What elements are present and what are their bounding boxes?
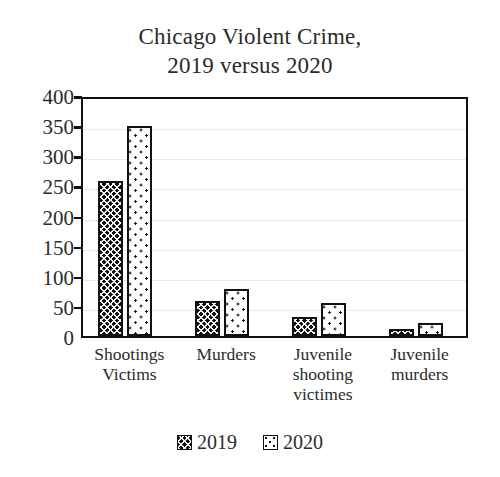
- chart-legend: 20192020: [0, 432, 500, 452]
- legend-label-2020: 2020: [283, 432, 323, 452]
- y-tick-label: 0: [12, 328, 74, 349]
- x-category-label-line: victimes: [265, 384, 382, 404]
- chart-title: Chicago Violent Crime, 2019 versus 2020: [0, 22, 500, 80]
- y-tick-label: 150: [12, 238, 74, 259]
- chart-title-line-2: 2019 versus 2020: [0, 51, 500, 80]
- x-axis-labels: ShootingsVictimsMurdersJuvenileshootingv…: [81, 344, 468, 416]
- y-tick-label: 300: [12, 147, 74, 168]
- x-category-label-line: murders: [361, 364, 478, 384]
- y-tick-label: 50: [12, 298, 74, 319]
- x-category-label: Juvenilemurders: [361, 344, 478, 384]
- plot-area: [81, 97, 468, 338]
- bar-2019-juvenile-murders[interactable]: [389, 329, 414, 336]
- x-category-label-line: Victims: [71, 364, 188, 384]
- bar-2019-shootings-victims[interactable]: [98, 181, 123, 336]
- y-tick-label: 200: [12, 208, 74, 229]
- y-tick-label: 400: [12, 87, 74, 108]
- bar-2020-murders[interactable]: [224, 289, 249, 336]
- chart-title-line-1: Chicago Violent Crime,: [0, 22, 500, 51]
- legend-swatch-2020: [263, 435, 278, 450]
- legend-swatch-2019: [177, 435, 192, 450]
- bar-2019-murders[interactable]: [195, 301, 220, 336]
- y-tick-label: 350: [12, 117, 74, 138]
- y-tick-label: 100: [12, 268, 74, 289]
- legend-item-2019[interactable]: 2019: [177, 432, 237, 452]
- y-axis: 400350300250200150100500: [8, 97, 74, 338]
- bar-2019-juvenile-shooting-victimes[interactable]: [292, 317, 317, 336]
- legend-item-2020[interactable]: 2020: [263, 432, 323, 452]
- bar-2020-juvenile-shooting-victimes[interactable]: [321, 303, 346, 336]
- bar-2020-juvenile-murders[interactable]: [418, 323, 443, 336]
- y-tick-label: 250: [12, 177, 74, 198]
- x-category-label-line: Juvenile: [361, 344, 478, 364]
- legend-label-2019: 2019: [197, 432, 237, 452]
- bar-2020-shootings-victims[interactable]: [127, 126, 152, 336]
